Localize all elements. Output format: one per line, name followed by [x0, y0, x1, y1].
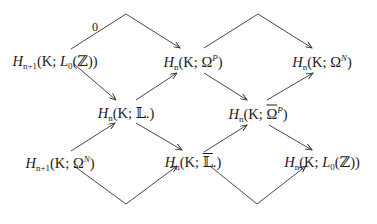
node-hn-omegaP: Hn(K; ΩP) [163, 53, 222, 72]
arrow-b1-a2 [136, 73, 177, 100]
arrow-c1-b1 [71, 123, 115, 151]
arrow-b1-c2 [136, 123, 182, 150]
node-hn-omegabarP: Hn(K; ΩP) [228, 105, 287, 124]
arrow-b2-c3 [269, 125, 312, 150]
edge-label-zero: 0 [92, 20, 98, 35]
arrow-a2-b2 [204, 73, 247, 100]
node-hn-Lbbbar: Hn(K; 𝕃.) [165, 154, 222, 172]
node-hn-omegaN: Hn(K; ΩN) [292, 53, 352, 72]
arrow-a2-a3 [204, 14, 312, 48]
arrow-c2-b2 [204, 125, 247, 152]
node-hn-Lbb: Hn(K; 𝕃.) [98, 105, 155, 123]
node-hn-L0Z: Hn(K; L0(ℤ)) [284, 154, 360, 172]
node-hn1-omegaN: Hn+1(K; ΩN) [25, 154, 94, 173]
node-hn1-L0Z: Hn+1(K; L0(ℤ)) [12, 53, 97, 71]
arrow-a1-a2 [71, 14, 180, 49]
arrow-b2-a3 [267, 73, 313, 100]
arrows-layer [0, 0, 377, 224]
